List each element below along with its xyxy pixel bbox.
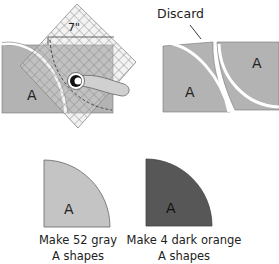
dark-caption-line2: A shapes [124, 248, 244, 264]
gray-caption-line2: A shapes [33, 248, 123, 264]
gray-caption: Make 52 gray A shapes [33, 232, 123, 264]
right-piece-label: A [252, 55, 262, 71]
dark-caption-line1: Make 4 dark orange [124, 232, 244, 248]
left-piece-label: A [185, 84, 195, 100]
result-dark-orange-shape: A [146, 159, 212, 226]
discard-pointer [190, 25, 201, 39]
shape-label: A [27, 87, 37, 103]
cut-step-illustration: 7" A [0, 0, 140, 135]
discard-step-illustration: A A [163, 25, 279, 112]
ruler-measure-label: 7" [68, 21, 80, 34]
dark-shape-label: A [166, 200, 176, 216]
result-gray-shape: A [44, 160, 110, 227]
discard-callout: Discard [157, 6, 204, 21]
gray-caption-line1: Make 52 gray [33, 232, 123, 248]
gray-shape-label: A [64, 201, 74, 217]
dark-caption: Make 4 dark orange A shapes [124, 232, 244, 264]
diagram-canvas: 7" A A A A A [0, 0, 279, 264]
